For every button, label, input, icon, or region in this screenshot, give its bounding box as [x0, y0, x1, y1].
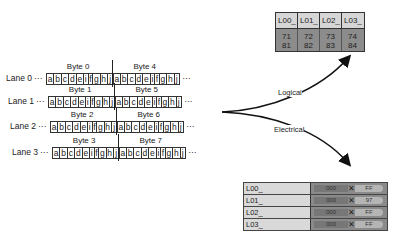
bit-symbol: e: [143, 74, 150, 84]
bit-symbol: h: [167, 74, 174, 84]
electrical-arrow: [222, 112, 348, 163]
bit-symbol: g: [97, 122, 104, 132]
bit-symbol: e: [83, 148, 90, 158]
byte-label: Byte 4: [133, 62, 156, 71]
bit-symbol: a: [51, 122, 58, 132]
bit-symbol: d: [136, 74, 143, 84]
waveform: 000 ✕ FF: [311, 183, 387, 194]
byte-label: Byte 1: [69, 85, 92, 94]
bit-symbol: b: [54, 74, 61, 84]
lane-dots: ···: [34, 73, 43, 83]
bit-symbol: a: [47, 74, 54, 84]
waveform-value-a: 000: [314, 221, 348, 228]
trailing-dots: ···: [182, 73, 191, 83]
symbol-group: abcdeifghj: [50, 121, 118, 133]
symbol-group: abcdeifghj: [46, 73, 114, 85]
bit-symbol: h: [171, 122, 178, 132]
lane-label: Lane 1: [8, 96, 34, 106]
signal-name: L00_: [244, 183, 311, 194]
bit-symbol: c: [130, 97, 137, 107]
bit-symbol: h: [105, 122, 112, 132]
symbol-group: abcdeifghj: [119, 147, 187, 159]
symbol-group: abcdeifghj: [117, 121, 185, 133]
bit-symbol: c: [66, 122, 73, 132]
bit-symbol: c: [68, 148, 75, 158]
symbol-group: abcdeifghj: [115, 96, 183, 108]
electrical-label: Electrical: [274, 125, 304, 134]
bit-symbol: e: [147, 122, 154, 132]
bit-symbol: e: [145, 97, 152, 107]
byte-label: Byte 7: [139, 136, 162, 145]
lane-dots: ···: [40, 147, 49, 157]
bit-symbol: b: [127, 148, 134, 158]
bit-symbol: e: [79, 97, 86, 107]
symbol-group: abcdeifghj: [113, 73, 181, 85]
byte-label: Byte 0: [67, 62, 90, 71]
electrical-view-panel: L00_ 000 ✕ FF L01_ 000 ✕ 97 L02_ 000 ✕ F…: [243, 182, 388, 231]
bit-symbol: b: [60, 148, 67, 158]
bit-symbol: h: [173, 148, 180, 158]
bit-symbol: g: [160, 74, 167, 84]
bit-symbol: j: [181, 148, 186, 158]
bit-symbol: b: [121, 74, 128, 84]
bit-symbol: g: [95, 97, 102, 107]
waveform: 000 ✕ FF: [311, 219, 387, 230]
bit-symbol: j: [179, 122, 184, 132]
byte-boundary: [116, 108, 117, 135]
bit-symbol: c: [128, 74, 135, 84]
logical-header-cell: L02_: [320, 13, 342, 28]
waveform-value-b: FF: [355, 185, 383, 192]
electrical-row: L02_ 000 ✕ FF: [244, 207, 387, 219]
bit-symbol: j: [177, 97, 182, 107]
logical-label: Logical: [278, 88, 302, 97]
byte-label: Byte 2: [71, 110, 94, 119]
logical-header-cell: L03_: [342, 13, 364, 28]
bit-symbol: c: [134, 148, 141, 158]
bit-symbol: e: [81, 122, 88, 132]
bit-symbol: d: [73, 122, 80, 132]
bit-symbol: h: [101, 74, 108, 84]
bit-symbol: d: [140, 122, 147, 132]
trailing-dots: ···: [186, 121, 195, 131]
bit-symbol: a: [114, 74, 121, 84]
bit-symbol: b: [56, 97, 63, 107]
bit-symbol: g: [99, 148, 106, 158]
byte-boundary: [118, 134, 119, 161]
logical-arrow: [222, 58, 348, 112]
transition-icon: ✕: [348, 220, 355, 229]
byte-boundary: [112, 60, 113, 87]
symbol-group: abcdeifghj: [48, 96, 116, 108]
waveform: 000 ✕ FF: [311, 207, 387, 218]
waveform-value-b: FF: [355, 209, 383, 216]
bit-symbol: h: [103, 97, 110, 107]
electrical-row: L00_ 000 ✕ FF: [244, 183, 387, 195]
bit-symbol: c: [62, 74, 69, 84]
logical-header-row: L00_ L01_ L02_ L03_: [276, 13, 364, 29]
bit-symbol: b: [58, 122, 65, 132]
bit-symbol: d: [142, 148, 149, 158]
byte-boundary: [114, 83, 115, 110]
waveform-value-a: 000: [314, 185, 348, 192]
bit-symbol: d: [69, 74, 76, 84]
waveform-value-b: 97: [355, 197, 383, 204]
logical-view-table: L00_ L01_ L02_ L03_ 7181 7282 7383 7484: [275, 12, 365, 52]
transition-icon: ✕: [348, 184, 355, 193]
logical-header-cell: L01_: [298, 13, 320, 28]
byte-label: Byte 3: [73, 136, 96, 145]
bit-symbol: e: [77, 74, 84, 84]
bit-symbol: a: [118, 122, 125, 132]
bit-symbol: a: [120, 148, 127, 158]
bit-symbol: b: [125, 122, 132, 132]
logical-header-cell: L00_: [276, 13, 298, 28]
bit-symbol: d: [71, 97, 78, 107]
lane-label: Lane 2: [10, 121, 36, 131]
bit-symbol: g: [166, 148, 173, 158]
bit-symbol: b: [123, 97, 130, 107]
logical-data-cell: 7383: [320, 29, 342, 51]
bit-symbol: c: [64, 97, 71, 107]
bit-symbol: a: [53, 148, 60, 158]
signal-name: L03_: [244, 219, 311, 230]
transition-icon: ✕: [348, 196, 355, 205]
bit-symbol: c: [132, 122, 139, 132]
bit-symbol: a: [116, 97, 123, 107]
